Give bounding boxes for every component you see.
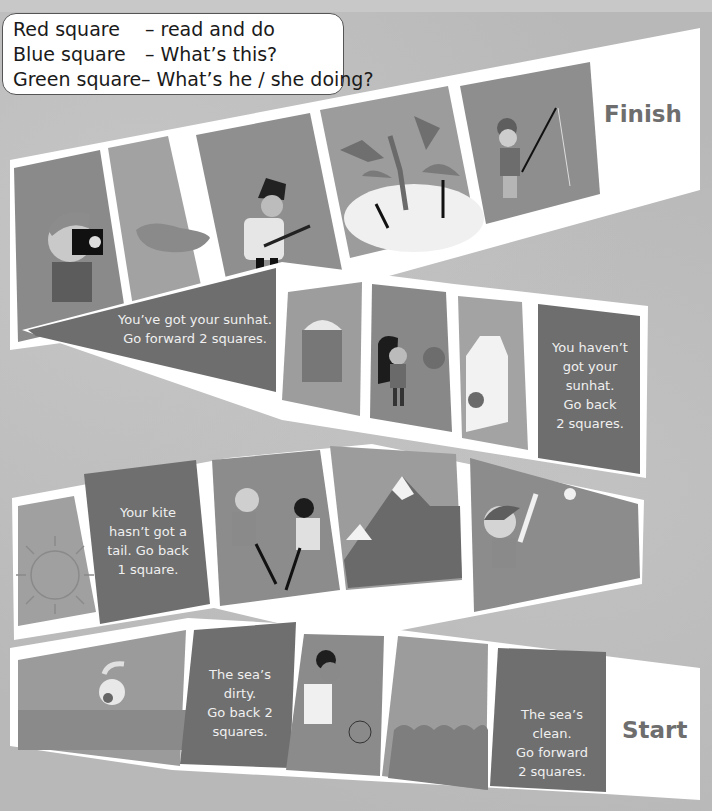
square-text-sunhat-forward: You’ve got your sunhat. Go forward 2 squ… — [110, 310, 280, 348]
legend-value: – read and do — [145, 17, 275, 42]
legend-box: Red square – read and do Blue square – W… — [2, 13, 344, 95]
legend-key: Green square — [13, 67, 141, 92]
legend-value: – What’s he / she doing? — [141, 67, 373, 92]
legend-row-green: Green square – What’s he / she doing? — [13, 67, 343, 92]
square-text-sunhat-back: You haven’t got your sunhat. Go back 2 s… — [540, 338, 640, 433]
square-text-kite: Your kite hasn’t got a tail. Go back 1 s… — [98, 503, 198, 579]
square-mountains[interactable] — [330, 446, 462, 590]
legend-row-red: Red square – read and do — [13, 17, 343, 42]
square-hockey[interactable] — [212, 450, 340, 606]
finish-label: Finish — [604, 101, 682, 127]
square-text-sea-dirty: The sea’s dirty. Go back 2 squares. — [190, 665, 290, 741]
legend-key: Red square — [13, 17, 145, 42]
square-text-sea-clean: The sea’s clean. Go forward 2 squares. — [498, 705, 606, 781]
square-waves[interactable] — [382, 636, 488, 790]
square-juice[interactable] — [458, 296, 528, 450]
start-label: Start — [622, 717, 687, 743]
legend-value: – What’s this? — [145, 42, 277, 67]
legend-row-blue: Blue square – What’s this? — [13, 42, 343, 67]
legend-key: Blue square — [13, 42, 145, 67]
square-fries[interactable] — [282, 282, 362, 416]
square-balloon[interactable] — [370, 284, 452, 432]
